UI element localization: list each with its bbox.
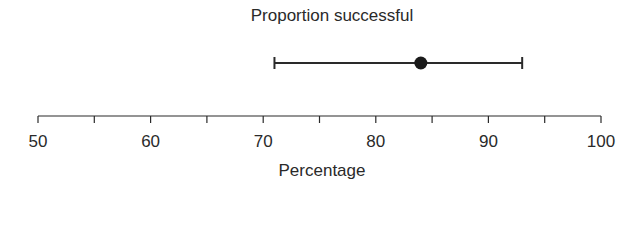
- point-estimate-marker: [414, 57, 427, 70]
- x-tick-label: 80: [366, 132, 385, 151]
- x-axis: 5060708090100: [29, 116, 616, 151]
- x-tick-label: 70: [254, 132, 273, 151]
- x-axis-label: Percentage: [0, 161, 644, 181]
- x-tick-label: 60: [141, 132, 160, 151]
- x-tick-label: 100: [587, 132, 615, 151]
- x-tick-label: 50: [29, 132, 48, 151]
- x-tick-label: 90: [479, 132, 498, 151]
- error-bar: [274, 57, 522, 70]
